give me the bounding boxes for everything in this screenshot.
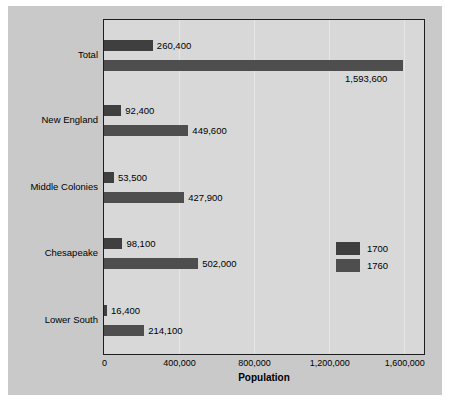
legend-swatch-1700 [336, 242, 360, 255]
bar-1700-chesapeake [104, 238, 122, 249]
x-tick-label: 1,200,000 [310, 358, 350, 368]
chart-legend: 1700 1760 [336, 242, 388, 276]
legend-label-1700: 1700 [367, 243, 388, 254]
category-label-new-england: New England [41, 114, 104, 125]
bar-1760-lower-south [104, 325, 144, 336]
bar-1760-new-england [104, 125, 188, 136]
value-label: 449,600 [192, 125, 226, 136]
value-label: 16,400 [111, 305, 140, 316]
category-label-middle-colonies: Middle Colonies [30, 181, 104, 192]
gridline [404, 20, 405, 354]
bar-1760-total [104, 60, 403, 71]
bar-1700-new-england [104, 105, 121, 116]
value-label: 1,593,600 [345, 73, 387, 84]
value-label: 53,500 [118, 172, 147, 183]
x-tick-label: 400,000 [163, 358, 196, 368]
category-label-lower-south: Lower South [45, 314, 104, 325]
bar-1700-total [104, 40, 153, 51]
value-label: 98,100 [126, 238, 155, 249]
chart-canvas: 260,4001,593,60092,400449,60053,500427,9… [8, 6, 442, 395]
bar-1700-lower-south [104, 305, 107, 316]
legend-label-1760: 1760 [367, 260, 388, 271]
value-label: 427,900 [188, 192, 222, 203]
x-tick-label: 0 [102, 358, 107, 368]
bar-1760-middle-colonies [104, 192, 184, 203]
legend-item: 1700 [336, 242, 388, 255]
x-tick-label: 1,600,000 [385, 358, 425, 368]
bar-1760-chesapeake [104, 258, 198, 269]
x-tick-label: 800,000 [238, 358, 271, 368]
value-label: 92,400 [125, 105, 154, 116]
bar-1700-middle-colonies [104, 172, 114, 183]
value-label: 260,400 [157, 40, 191, 51]
category-label-chesapeake: Chesapeake [45, 247, 104, 258]
value-label: 502,000 [202, 258, 236, 269]
category-label-total: Total [78, 49, 104, 60]
value-label: 214,100 [148, 325, 182, 336]
legend-swatch-1760 [336, 259, 360, 272]
legend-item: 1760 [336, 259, 388, 272]
x-axis-title: Population [103, 372, 425, 383]
plot-area: 260,4001,593,60092,400449,60053,500427,9… [103, 19, 425, 355]
